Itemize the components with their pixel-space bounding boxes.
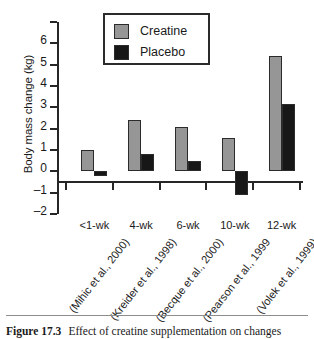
y-tick: –2	[50, 213, 57, 215]
x-category-label-<1-wk: <1-wk	[80, 219, 110, 231]
y-tick-label: 3	[40, 98, 47, 110]
y-tick: 2	[50, 128, 57, 130]
y-tick-label: 6	[40, 34, 47, 46]
y-tick: –1	[50, 192, 57, 194]
chart-legend: Creatine Placebo	[103, 13, 210, 65]
bar-creatine-4-wk	[128, 120, 141, 171]
y-axis-line	[57, 22, 59, 214]
y-tick: 5	[50, 64, 57, 66]
caption-number: Figure 17.3	[6, 325, 61, 337]
y-axis-title: Body mass change (kg)	[22, 24, 34, 204]
y-tick: 6	[50, 42, 57, 44]
bar-creatine-<1-wk	[81, 150, 94, 171]
caption-divider	[6, 315, 308, 316]
legend-label-placebo: Placebo	[140, 46, 185, 59]
bar-creatine-12-wk	[269, 56, 282, 171]
legend-label-creatine: Creatine	[140, 25, 187, 38]
zero-baseline	[57, 181, 303, 183]
bar-creatine-10-wk	[222, 138, 235, 171]
x-tick	[65, 183, 67, 190]
y-tick-label: 1	[40, 141, 47, 153]
x-category-label-6-wk: 6-wk	[176, 219, 199, 231]
y-tick-label: 4	[40, 77, 47, 89]
caption-text: Effect of creatine supplementation on ch…	[68, 325, 281, 337]
legend-item-creatine: Creatine	[114, 22, 187, 40]
x-category-label-4-wk: 4-wk	[130, 219, 153, 231]
figure-container: Body mass change (kg) 6543210–1–2 <1-wk(…	[0, 0, 314, 339]
y-tick-label: 2	[40, 120, 47, 132]
y-tick: 3	[50, 106, 57, 108]
legend-item-placebo: Placebo	[114, 43, 185, 61]
y-tick-label: 0	[40, 162, 47, 174]
bar-placebo-<1-wk	[94, 171, 107, 175]
bar-creatine-6-wk	[175, 127, 188, 172]
y-tick-label: 5	[40, 56, 47, 68]
y-tick-label: –2	[34, 205, 47, 217]
bar-placebo-6-wk	[188, 161, 201, 172]
y-tick	[50, 21, 57, 23]
x-tick	[299, 183, 301, 190]
x-tick	[112, 183, 114, 190]
y-tick: 4	[50, 85, 57, 87]
y-tick-label: –1	[34, 184, 47, 196]
x-tick	[205, 183, 207, 190]
x-tick	[159, 183, 161, 190]
x-category-label-12-wk: 12-wk	[267, 219, 296, 231]
x-tick	[252, 183, 254, 190]
black-square-swatch	[114, 45, 129, 60]
bar-placebo-4-wk	[141, 154, 154, 171]
bar-placebo-12-wk	[282, 104, 295, 171]
y-tick: 1	[50, 149, 57, 151]
y-tick: 0	[50, 170, 57, 172]
bar-placebo-10-wk	[235, 171, 248, 194]
x-category-label-10-wk: 10-wk	[220, 219, 249, 231]
gray-square-swatch	[114, 24, 129, 39]
figure-caption: Figure 17.3Effect of creatine supplement…	[6, 324, 312, 338]
